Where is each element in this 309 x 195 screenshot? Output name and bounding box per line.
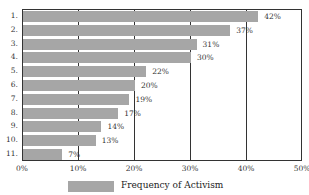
bar [23,121,101,132]
category-label: 10. [2,134,18,145]
bar [23,94,129,105]
bar [23,11,258,22]
category-label: 8. [2,107,18,118]
category-label: 5. [2,65,18,76]
value-label: 13% [102,135,119,146]
category-label: 3. [2,38,18,49]
bar [23,25,230,36]
category-label: 11. [2,148,18,159]
bar [23,52,191,63]
x-tick-label: 20% [126,164,143,173]
value-label: 31% [203,39,220,50]
x-tick-label: 30% [182,164,199,173]
x-tick-label: 10% [70,164,87,173]
value-label: 19% [135,94,152,105]
value-label: 20% [141,80,158,91]
category-label: 7. [2,93,18,104]
value-label: 30% [197,52,214,63]
category-label: 6. [2,79,18,90]
bar [23,39,197,50]
bar [23,135,96,146]
bar [23,80,135,91]
value-label: 14% [107,121,124,132]
category-label: 1. [2,10,18,21]
category-label: 9. [2,120,18,131]
value-label: 7% [68,149,80,160]
bar [23,66,146,77]
plot-area: 42%37%31%30%22%20%19%17%14%13%7% [22,9,302,161]
value-label: 37% [236,25,253,36]
bar [23,149,62,160]
category-label: 2. [2,24,18,35]
x-tick-label: 40% [238,164,255,173]
legend-swatch [68,181,114,192]
x-tick-label: 50% [294,164,309,173]
value-label: 17% [124,108,141,119]
bar [23,108,118,119]
legend-label: Frequency of Activism [121,180,223,190]
x-tick-label: 0% [16,164,28,173]
value-label: 42% [264,11,281,22]
category-label: 4. [2,51,18,62]
value-label: 22% [152,66,169,77]
